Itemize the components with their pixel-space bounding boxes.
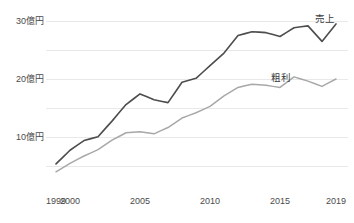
y-tick-label: 20億円 bbox=[16, 74, 44, 84]
y-tick-label: 10億円 bbox=[16, 132, 44, 142]
series-line-sales bbox=[56, 24, 336, 164]
y-tick-label: 30億円 bbox=[16, 16, 44, 26]
series-group bbox=[56, 24, 336, 172]
x-tick-label: 2010 bbox=[200, 196, 220, 206]
line-chart: 10億円20億円30億円 199920002005201020152019 売上… bbox=[0, 0, 354, 223]
x-tick-label: 2015 bbox=[270, 196, 290, 206]
x-tick-label: 2000 bbox=[60, 196, 80, 206]
series-label-sales: 売上 bbox=[315, 13, 335, 24]
x-tick-label: 2005 bbox=[130, 196, 150, 206]
series-line-gross-profit bbox=[56, 77, 336, 172]
chart-plot-area bbox=[0, 0, 354, 223]
gridline-group bbox=[46, 21, 348, 166]
series-label-gross-profit: 粗利 bbox=[271, 72, 291, 83]
x-tick-label: 2019 bbox=[326, 196, 346, 206]
